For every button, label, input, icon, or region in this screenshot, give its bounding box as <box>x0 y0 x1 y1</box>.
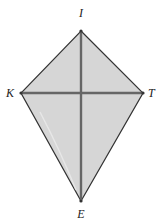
vertex-k-dot <box>19 91 22 94</box>
vertex-label-i: I <box>78 6 84 20</box>
vertex-label-t: T <box>148 86 156 100</box>
vertex-e-dot <box>79 199 82 202</box>
vertex-label-e: E <box>76 207 85 221</box>
kite-diagram: I K T E <box>0 0 161 224</box>
vertex-t-dot <box>141 91 144 94</box>
vertex-i-dot <box>79 29 82 32</box>
vertex-label-k: K <box>5 86 15 100</box>
